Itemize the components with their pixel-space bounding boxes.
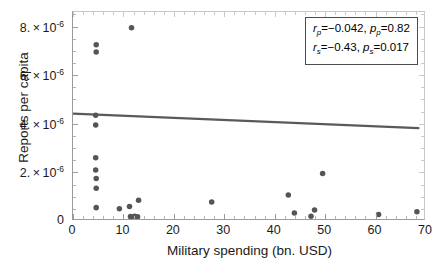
data-point <box>93 113 99 119</box>
x-tick-minor <box>255 216 256 219</box>
y-tick-minor <box>73 63 76 64</box>
y-tick-minor <box>73 14 76 15</box>
y-tick-label: 0 <box>2 213 64 227</box>
y-tick-major <box>419 172 424 173</box>
x-tick-minor <box>355 216 356 219</box>
data-point <box>127 204 133 210</box>
x-tick-minor <box>335 12 336 15</box>
x-tick-minor <box>285 216 286 219</box>
x-tick-minor <box>305 216 306 219</box>
x-tick-minor <box>184 216 185 219</box>
x-tick-minor <box>244 216 245 219</box>
y-tick-minor <box>421 39 424 40</box>
x-tick-label: 70 <box>400 223 437 237</box>
y-tick-minor <box>73 209 76 210</box>
data-point <box>93 122 99 128</box>
y-tick-minor <box>73 136 76 137</box>
x-tick-minor <box>93 216 94 219</box>
x-tick-minor <box>295 12 296 15</box>
x-tick-minor <box>83 12 84 15</box>
x-tick-minor <box>103 12 104 15</box>
data-point <box>286 192 292 198</box>
x-tick-minor <box>204 216 205 219</box>
x-tick-major <box>275 214 276 219</box>
x-tick-minor <box>355 12 356 15</box>
pearson-p-symbol: pp <box>370 22 381 34</box>
spearman-p-symbol: ps <box>363 41 373 53</box>
y-tick-minor <box>421 112 424 113</box>
data-point <box>320 171 326 177</box>
data-point <box>308 213 314 219</box>
x-tick-major <box>123 214 124 219</box>
data-point <box>129 25 135 31</box>
y-tick-minor <box>421 160 424 161</box>
scatter-plot-figure: Reports per capita Military spending (bn… <box>0 0 437 267</box>
data-point <box>93 205 99 211</box>
y-tick-minor <box>421 51 424 52</box>
x-tick-minor <box>406 12 407 15</box>
x-tick-major <box>73 214 74 219</box>
data-point <box>292 210 298 216</box>
x-tick-minor <box>244 12 245 15</box>
stats-line-spearman: rs=−0.43, ps=0.017 <box>313 40 410 59</box>
x-tick-minor <box>345 216 346 219</box>
x-tick-major <box>174 214 175 219</box>
x-tick-minor <box>396 12 397 15</box>
y-tick-minor <box>421 14 424 15</box>
data-point <box>93 185 99 191</box>
x-tick-minor <box>386 12 387 15</box>
y-tick-minor <box>421 148 424 149</box>
y-tick-major <box>73 124 78 125</box>
y-tick-minor <box>73 51 76 52</box>
y-tick-minor <box>73 197 76 198</box>
data-point <box>93 49 99 55</box>
x-tick-label: 40 <box>249 223 299 237</box>
y-tick-minor <box>73 185 76 186</box>
x-tick-minor <box>214 12 215 15</box>
x-tick-minor <box>265 216 266 219</box>
y-tick-minor <box>73 148 76 149</box>
x-tick-label: 50 <box>299 223 349 237</box>
x-tick-minor <box>144 12 145 15</box>
x-tick-minor <box>386 216 387 219</box>
x-tick-minor <box>234 12 235 15</box>
y-tick-minor <box>421 99 424 100</box>
x-tick-minor <box>315 216 316 219</box>
x-tick-label: 20 <box>148 223 198 237</box>
pearson-p-value: =0.82 <box>381 22 410 34</box>
x-tick-minor <box>214 216 215 219</box>
x-tick-minor <box>234 216 235 219</box>
x-tick-minor <box>154 216 155 219</box>
x-tick-minor <box>305 12 306 15</box>
y-tick-minor <box>421 209 424 210</box>
x-tick-minor <box>134 12 135 15</box>
y-tick-label: 8. × 10-6 <box>2 19 64 33</box>
x-tick-minor <box>335 216 336 219</box>
x-tick-minor <box>194 216 195 219</box>
y-tick-minor <box>421 197 424 198</box>
data-point <box>93 155 99 161</box>
x-tick-minor <box>103 216 104 219</box>
x-tick-minor <box>113 12 114 15</box>
x-tick-minor <box>295 216 296 219</box>
x-axis-label: Military spending (bn. USD) <box>72 243 427 258</box>
y-tick-major <box>419 124 424 125</box>
x-tick-minor <box>255 12 256 15</box>
y-tick-minor <box>421 87 424 88</box>
spearman-r-value: =−0.43, <box>321 41 360 53</box>
y-tick-major <box>73 75 78 76</box>
data-point <box>93 176 99 182</box>
data-point <box>376 212 382 218</box>
data-point <box>117 206 123 212</box>
x-tick-minor <box>113 216 114 219</box>
y-tick-label: 4. × 10-6 <box>2 116 64 130</box>
y-tick-minor <box>421 185 424 186</box>
x-tick-minor <box>265 12 266 15</box>
x-tick-major <box>224 214 225 219</box>
x-tick-minor <box>204 12 205 15</box>
y-tick-minor <box>73 160 76 161</box>
x-tick-minor <box>154 12 155 15</box>
x-tick-minor <box>416 216 417 219</box>
x-tick-label: 30 <box>198 223 248 237</box>
x-tick-minor <box>194 12 195 15</box>
